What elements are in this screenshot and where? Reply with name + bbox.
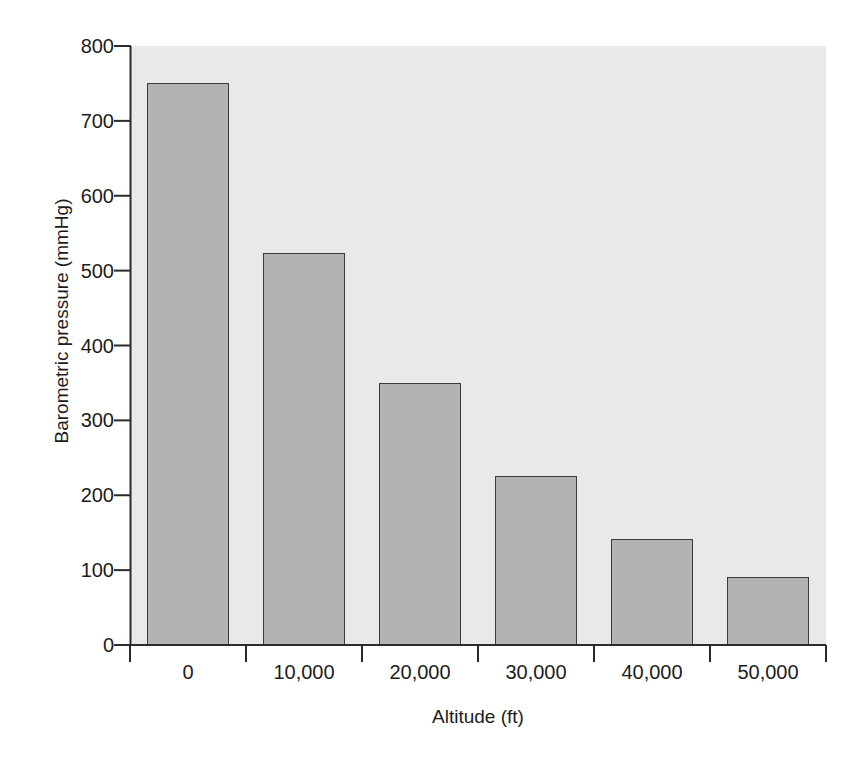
x-axis-tick-labels: 010,00020,00030,00040,00050,000	[130, 661, 826, 691]
x-axis-tick-label: 20,000	[389, 661, 450, 684]
x-axis-title: Altitude (ft)	[130, 706, 826, 728]
x-axis-ticks	[130, 645, 826, 662]
x-axis-tick-label: 50,000	[737, 661, 798, 684]
y-axis-tick-label: 100	[50, 559, 114, 582]
y-axis-tick-label: 0	[50, 634, 114, 657]
x-axis-tick-label: 10,000	[273, 661, 334, 684]
axis-lines	[0, 0, 862, 768]
x-axis-tick-label: 40,000	[621, 661, 682, 684]
x-axis-tick-label: 30,000	[505, 661, 566, 684]
y-axis-tick-label: 800	[50, 35, 114, 58]
x-axis-tick-label: 0	[182, 661, 193, 684]
bar-chart-figure: 8007006005004003002001000 010,00020,0003…	[0, 0, 862, 768]
y-axis-ticks	[114, 46, 131, 645]
y-axis-title: Barometric pressure (mmHg)	[51, 111, 73, 531]
